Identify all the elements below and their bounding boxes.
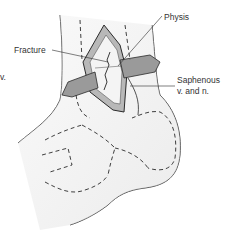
partial-left-label: v. [0,72,6,82]
leader-lines [0,0,235,238]
physis-label: Physis [164,12,189,22]
figure-canvas: Fracture Physis Saphenous v. and n. v. [0,0,235,238]
saphenous-label-line1: Saphenous [177,75,220,85]
saphenous-label-line2: v. and n. [177,86,209,96]
